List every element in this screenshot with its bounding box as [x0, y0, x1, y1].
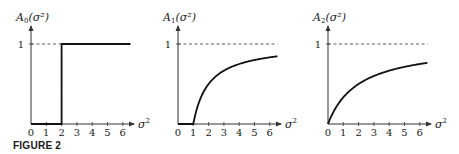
x-tick-label: 2 [58, 127, 64, 138]
figure-caption: FIGURE 2 [13, 139, 61, 151]
series-line-A1 [178, 56, 277, 124]
x-tick-label: 0 [325, 127, 331, 138]
y-tick-label: 1 [18, 39, 24, 50]
y-axis-label: A0(σ²) [15, 11, 49, 25]
x-tick-label: 5 [251, 127, 257, 138]
x-axis-label: σ2 [435, 117, 447, 131]
y-axis-label: A2(σ²) [312, 11, 346, 25]
series-line-A0 [31, 44, 130, 124]
x-tick-label: 5 [401, 127, 407, 138]
x-tick-label: 6 [120, 127, 126, 138]
x-tick-label: 3 [221, 127, 227, 138]
y-axis-label: A1(σ²) [162, 11, 196, 25]
series-line-A2 [328, 63, 427, 124]
x-tick-label: 4 [89, 127, 95, 138]
x-tick-label: 1 [340, 127, 346, 138]
x-tick-label: 5 [104, 127, 110, 138]
x-tick-label: 1 [190, 127, 196, 138]
x-tick-label: 0 [175, 127, 181, 138]
chart-panel-1: 01234561A1(σ²)σ2 [162, 11, 297, 138]
y-tick-label: 1 [315, 39, 321, 50]
x-tick-label: 4 [236, 127, 242, 138]
x-tick-label: 3 [371, 127, 377, 138]
x-tick-label: 6 [267, 127, 273, 138]
x-axis-label: σ2 [285, 117, 297, 131]
x-tick-label: 3 [74, 127, 80, 138]
x-tick-label: 4 [386, 127, 392, 138]
x-tick-label: 1 [43, 127, 49, 138]
x-axis-label: σ2 [138, 117, 150, 131]
chart-panel-0: 01234561A0(σ²)σ2 [15, 11, 150, 138]
x-tick-label: 2 [355, 127, 361, 138]
x-tick-label: 6 [417, 127, 423, 138]
figure-svg: 01234561A0(σ²)σ201234561A1(σ²)σ201234561… [0, 0, 459, 154]
x-tick-label: 2 [205, 127, 211, 138]
x-tick-label: 0 [28, 127, 34, 138]
y-tick-label: 1 [165, 39, 171, 50]
chart-panel-2: 01234561A2(σ²)σ2 [312, 11, 447, 138]
